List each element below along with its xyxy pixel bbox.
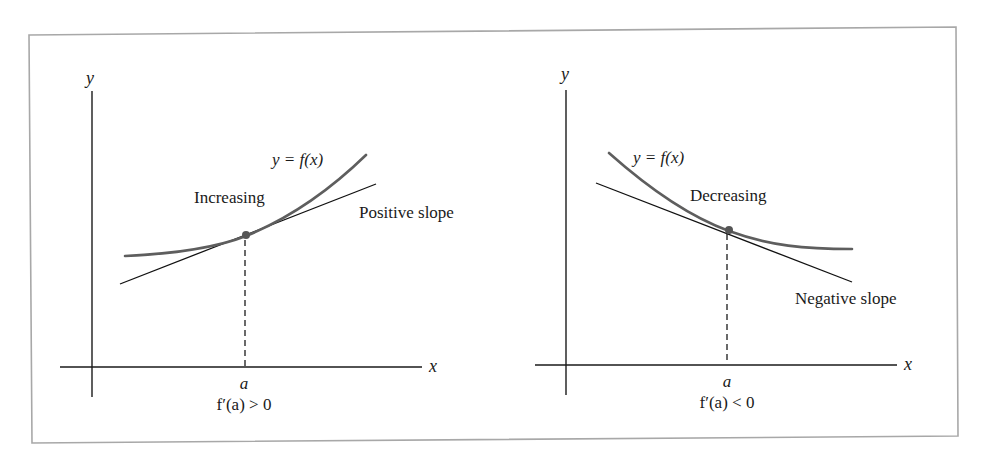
figure-frame (29, 27, 958, 443)
right-derivative-condition: f′(a) < 0 (700, 393, 755, 412)
right-point-label: a (723, 372, 732, 391)
right-x-axis-label: x (903, 354, 912, 374)
left-tangent-point (242, 231, 250, 239)
right-panel-decreasing: y x y = f(x) Decreasing Negative slope a… (535, 64, 912, 412)
right-y-axis-label: y (559, 64, 569, 84)
left-curve-label: y = f(x) (270, 150, 323, 169)
right-tangent-label: Negative slope (795, 289, 897, 308)
right-curve-label: y = f(x) (631, 148, 684, 167)
left-region-label: Increasing (194, 188, 265, 207)
left-panel-increasing: y x y = f(x) Increasing Positive slope a… (60, 68, 454, 414)
left-tangent-label: Positive slope (359, 203, 454, 222)
derivative-sign-figure: y x y = f(x) Increasing Positive slope a… (0, 0, 985, 455)
left-point-label: a (240, 374, 249, 393)
right-region-label: Decreasing (690, 186, 767, 205)
left-derivative-condition: f′(a) > 0 (217, 395, 272, 414)
left-x-axis-label: x (428, 356, 437, 376)
right-tangent-point (725, 226, 733, 234)
left-y-axis-label: y (84, 68, 94, 88)
